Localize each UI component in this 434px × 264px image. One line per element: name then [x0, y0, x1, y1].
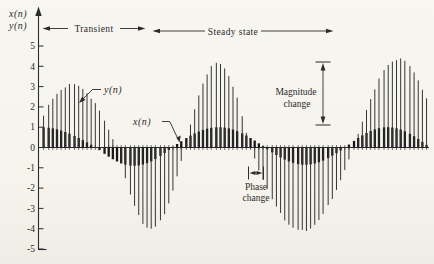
transient-label: Transient — [74, 24, 113, 34]
phase-change-annotation: Phase change — [243, 167, 270, 204]
transient-right-arrowhead-icon — [138, 26, 146, 31]
y-tick-label: -5 — [27, 244, 35, 254]
input-callout: x(n) — [132, 116, 181, 143]
dsp-transient-steady-state-figure: 543210-1-2-3-4-5 x(n) y(n) Transient Ste… — [0, 0, 434, 264]
magnitude-change-label-2: change — [284, 99, 311, 109]
y-tick-label: 1 — [30, 122, 35, 132]
y-tick-label: 5 — [30, 41, 35, 51]
magnitude-up-arrowhead-icon — [321, 63, 326, 71]
steady-state-region-annotation: Steady state — [153, 27, 334, 37]
y-axis-label-y: y(n) — [8, 20, 27, 32]
output-callout: y(n) — [79, 84, 122, 103]
y-tick-label: -2 — [27, 183, 35, 193]
steady-state-label: Steady state — [208, 27, 258, 37]
y-axis-label-x: x(n) — [8, 8, 27, 20]
magnitude-change-label-1: Magnitude — [275, 87, 316, 97]
y-tick-label: -1 — [27, 163, 35, 173]
magnitude-down-arrowhead-icon — [321, 117, 326, 125]
input-callout-label: x(n) — [132, 116, 151, 128]
y-axis-ticks: 543210-1-2-3-4-5 — [27, 41, 43, 254]
output-callout-label: y(n) — [103, 84, 122, 96]
phase-change-label-1: Phase — [245, 182, 267, 192]
y-tick-label: 0 — [30, 143, 35, 153]
y-axis-arrowhead-icon — [35, 7, 41, 17]
steady-left-arrowhead-icon — [153, 29, 161, 34]
phase-right-arrowhead-icon — [257, 171, 263, 175]
input-signal-stems — [44, 127, 427, 166]
transient-left-arrowhead-icon — [43, 26, 51, 31]
stem-plot: 543210-1-2-3-4-5 x(n) y(n) Transient Ste… — [0, 0, 434, 264]
input-callout-leader — [170, 122, 178, 138]
steady-right-arrowhead-icon — [326, 29, 334, 34]
y-tick-label: 4 — [30, 62, 35, 72]
y-tick-label: -3 — [27, 204, 35, 214]
phase-left-arrowhead-icon — [250, 171, 256, 175]
transient-region-annotation: Transient — [43, 24, 146, 34]
y-tick-label: 3 — [30, 82, 35, 92]
magnitude-change-annotation: Magnitude change — [275, 62, 330, 125]
y-tick-label: -4 — [27, 224, 35, 234]
y-tick-label: 2 — [30, 102, 35, 112]
phase-change-label-2: change — [243, 193, 270, 203]
output-signal-stems — [44, 58, 427, 231]
